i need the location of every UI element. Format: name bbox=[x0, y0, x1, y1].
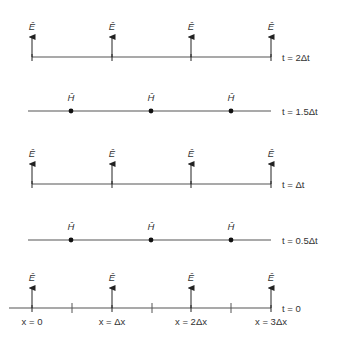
e-field-label: Ê bbox=[268, 148, 275, 159]
time-label: t = 1.5Δt bbox=[282, 106, 318, 117]
h-field-dot-icon bbox=[69, 238, 74, 243]
time-row-h: ĤĤĤt = 0.5Δt bbox=[28, 221, 318, 246]
time-label: t = 0 bbox=[282, 303, 301, 314]
time-label: t = 0.5Δt bbox=[282, 235, 318, 246]
x-position-label: x = 2Δx bbox=[175, 316, 207, 327]
e-field-label: Ê bbox=[109, 272, 116, 283]
h-field-label: Ĥ bbox=[228, 221, 235, 232]
h-field-dot-icon bbox=[69, 109, 74, 114]
time-label: t = 2Δt bbox=[282, 52, 310, 63]
h-field-dot-icon bbox=[149, 109, 154, 114]
e-field-label: Ê bbox=[109, 148, 116, 159]
e-field-label: Ê bbox=[188, 148, 195, 159]
e-field-label: Ê bbox=[188, 272, 195, 283]
time-label: t = Δt bbox=[282, 179, 305, 190]
time-row-e: ÊÊÊÊt = 0 bbox=[9, 272, 301, 314]
e-field-label: Ê bbox=[29, 272, 36, 283]
e-field-label: Ê bbox=[268, 272, 275, 283]
time-row-e: ÊÊÊÊt = 2Δt bbox=[29, 21, 310, 63]
fdtd-grid-diagram: ÊÊÊÊt = 2ΔtĤĤĤt = 1.5ΔtÊÊÊÊt = ΔtĤĤĤt = … bbox=[0, 0, 339, 342]
x-position-label: x = 3Δx bbox=[255, 316, 287, 327]
x-position-label: x = Δx bbox=[99, 316, 126, 327]
e-field-label: Ê bbox=[188, 21, 195, 32]
e-field-label: Ê bbox=[29, 148, 36, 159]
h-field-label: Ĥ bbox=[148, 221, 155, 232]
time-row-e: ÊÊÊÊt = Δt bbox=[29, 148, 305, 190]
e-field-label: Ê bbox=[109, 21, 116, 32]
x-position-label: x = 0 bbox=[22, 316, 43, 327]
h-field-label: Ĥ bbox=[68, 221, 75, 232]
time-row-h: ĤĤĤt = 1.5Δt bbox=[28, 92, 318, 117]
h-field-dot-icon bbox=[149, 238, 154, 243]
h-field-label: Ĥ bbox=[148, 92, 155, 103]
e-field-label: Ê bbox=[29, 21, 36, 32]
e-field-label: Ê bbox=[268, 21, 275, 32]
h-field-label: Ĥ bbox=[228, 92, 235, 103]
h-field-label: Ĥ bbox=[68, 92, 75, 103]
h-field-dot-icon bbox=[229, 238, 234, 243]
h-field-dot-icon bbox=[229, 109, 234, 114]
